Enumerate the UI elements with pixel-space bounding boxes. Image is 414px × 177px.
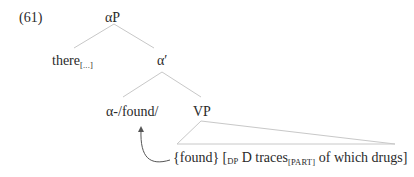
edge-bar-vp (162, 72, 201, 97)
edge-root-there (74, 24, 114, 48)
edge-root-bar (114, 24, 154, 48)
edge-bar-head (123, 72, 162, 97)
arrowhead-icon (138, 126, 144, 132)
movement-arrow-icon (141, 130, 170, 162)
vp-triangle (177, 121, 395, 144)
tree-edges (0, 0, 414, 177)
